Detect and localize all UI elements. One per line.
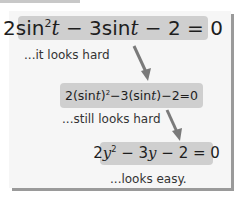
down-arrow-icon [167,110,182,141]
arrows-layer [0,0,246,201]
down-arrow-icon [134,46,151,81]
